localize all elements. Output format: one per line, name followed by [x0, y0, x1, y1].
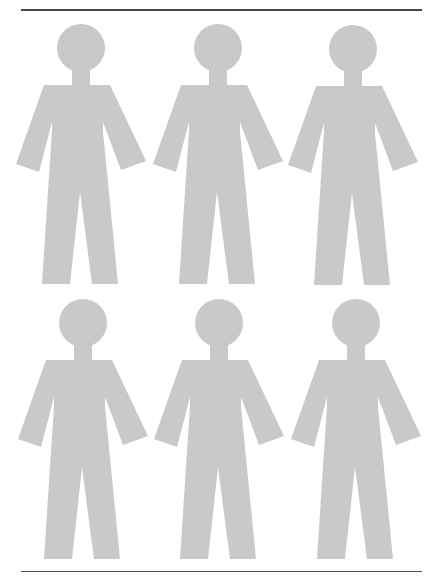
person-figure-icon [18, 299, 148, 559]
person-figure-icon [154, 299, 284, 559]
person-figure-icon [288, 25, 418, 285]
figures-canvas [0, 0, 442, 583]
person-figure-icon [153, 24, 283, 284]
person-figure-icon [291, 299, 421, 559]
bottom-rule [21, 571, 422, 572]
person-figure-icon [16, 24, 146, 284]
